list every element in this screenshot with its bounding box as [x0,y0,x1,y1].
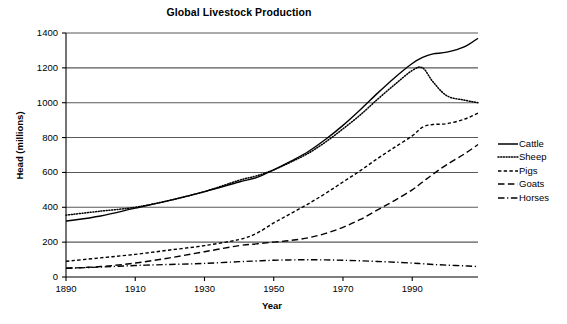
legend-swatch-sheep-icon [497,152,519,162]
legend-swatch-horses-icon [497,193,519,203]
legend-label: Horses [519,193,549,203]
x-tick-label: 1950 [244,284,304,294]
series-line-cattle [66,38,478,221]
legend-swatch-goats-icon [497,179,519,189]
y-tick-label: 400 [18,202,58,212]
x-tick-label: 1990 [382,284,442,294]
y-tick-label: 0 [18,272,58,282]
y-tick-label: 800 [18,133,58,143]
x-tick-label: 1970 [313,284,373,294]
series-line-goats [66,145,478,269]
legend-label: Cattle [519,139,544,149]
legend-swatch-pigs-icon [497,166,519,176]
plot-area [0,0,567,324]
legend-label: Pigs [519,166,537,176]
chart-title: Global Livestock Production [0,6,478,18]
legend-label: Sheep [519,152,546,162]
y-tick-label: 1000 [18,98,58,108]
chart-legend: CattleSheepPigsGoatsHorses [497,137,567,205]
y-tick-label: 200 [18,237,58,247]
legend-label: Goats [519,179,544,189]
series-line-pigs [66,113,478,261]
legend-item-sheep[interactable]: Sheep [497,151,567,165]
y-tick-label: 600 [18,167,58,177]
legend-swatch-cattle-icon [497,139,519,149]
x-tick-label: 1910 [105,284,165,294]
legend-item-goats[interactable]: Goats [497,178,567,192]
data-series-group [66,38,478,268]
legend-item-pigs[interactable]: Pigs [497,164,567,178]
x-tick-label: 1930 [174,284,234,294]
x-tick-label: 1890 [36,284,96,294]
legend-item-horses[interactable]: Horses [497,191,567,205]
gridlines [66,33,478,277]
legend-item-cattle[interactable]: Cattle [497,137,567,151]
y-tick-label: 1200 [18,63,58,73]
x-axis-label: Year [66,300,478,311]
chart-container: Global Livestock Production Head (millio… [0,0,567,324]
y-tick-label: 1400 [18,28,58,38]
y-tick-marks [62,33,66,277]
series-line-sheep [66,67,478,215]
x-tick-marks [66,277,412,281]
